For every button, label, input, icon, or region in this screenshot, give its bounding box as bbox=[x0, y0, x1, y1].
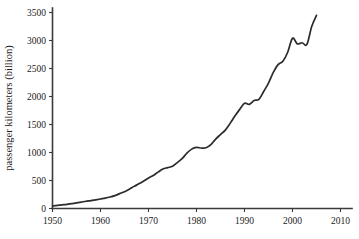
y-axis-tick-label: 2000 bbox=[27, 92, 46, 102]
y-axis-tick-label: 500 bbox=[32, 176, 47, 186]
x-axis-tick-group: 1950196019701980199020002010 bbox=[43, 209, 350, 226]
y-axis-title: passenger kilometers (billion) bbox=[3, 45, 15, 171]
y-axis-tick-label: 3000 bbox=[27, 36, 46, 46]
x-axis-tick-label: 1980 bbox=[187, 216, 206, 226]
line-chart: 0500100015002000250030003500 19501960197… bbox=[0, 0, 359, 239]
x-axis-tick-label: 1990 bbox=[235, 216, 254, 226]
y-axis-tick-label: 1000 bbox=[27, 148, 46, 158]
x-axis-tick-label: 2010 bbox=[331, 216, 350, 226]
y-axis-tick-label: 2500 bbox=[27, 64, 46, 74]
x-axis-tick-label: 1970 bbox=[139, 216, 158, 226]
chart-container: 0500100015002000250030003500 19501960197… bbox=[0, 0, 359, 239]
y-axis-tick-label: 3500 bbox=[27, 8, 46, 18]
data-series-line bbox=[53, 15, 317, 206]
x-axis-tick-label: 2000 bbox=[283, 216, 302, 226]
x-axis-tick-label: 1960 bbox=[91, 216, 110, 226]
y-axis-tick-label: 0 bbox=[41, 204, 46, 214]
y-axis-tick-label: 1500 bbox=[27, 120, 46, 130]
y-axis-tick-group: 0500100015002000250030003500 bbox=[27, 8, 53, 214]
x-axis-tick-label: 1950 bbox=[43, 216, 62, 226]
